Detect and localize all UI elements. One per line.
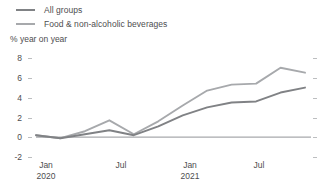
x-axis-tick-jan-2020: Jan 2020 (16, 160, 76, 182)
x-axis-tick-label: Jan (160, 160, 220, 171)
x-axis-tick-jul-2020: Jul (91, 160, 151, 171)
chart-container: All groups Food & non-alcoholic beverage… (0, 0, 330, 187)
x-axis-tick-label: Jul (229, 160, 289, 171)
chart-svg (0, 0, 330, 187)
series-line-food-non-alcoholic-beverages (36, 68, 305, 138)
x-axis-tick-jul-2021: Jul (229, 160, 289, 171)
x-axis-tick-sublabel: 2021 (160, 171, 220, 182)
plot-area (0, 0, 330, 187)
x-axis-tick-label: Jan (16, 160, 76, 171)
x-axis-tick-label: Jul (91, 160, 151, 171)
x-axis-tick-sublabel: 2020 (16, 171, 76, 182)
x-axis-tick-jan-2021: Jan 2021 (160, 160, 220, 182)
